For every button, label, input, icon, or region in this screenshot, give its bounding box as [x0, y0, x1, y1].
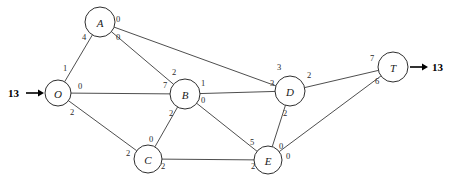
- flow-label-d-e-from: 2: [283, 108, 287, 118]
- edge-a-d: [114, 27, 276, 86]
- source-supply-value: 13: [8, 87, 20, 99]
- node-label-a: A: [96, 17, 104, 29]
- nodes-layer: OABCDET: [45, 7, 408, 174]
- flow-label-b-e-to: 5: [250, 137, 254, 147]
- node-label-d: D: [285, 86, 294, 98]
- flow-label-d-t-to: 7: [370, 53, 374, 63]
- flow-label-c-e-from: 2: [161, 161, 165, 171]
- node-label-t: T: [390, 62, 397, 74]
- flow-label-a-b-to: 2: [172, 67, 176, 77]
- flow-label-a-d-from: 0: [116, 14, 120, 24]
- sink-arrow-head: [422, 63, 428, 70]
- edge-d-t: [305, 70, 379, 87]
- sink-demand-value: 13: [432, 61, 444, 73]
- flow-label-o-c-to: 2: [126, 148, 130, 158]
- flow-label-d-t-from: 2: [307, 70, 311, 80]
- edge-b-c: [155, 107, 178, 147]
- flow-label-o-b-to: 7: [163, 80, 167, 90]
- node-label-b: B: [182, 89, 189, 101]
- node-label-e: E: [264, 155, 272, 167]
- flow-label-e-t-from: 0: [286, 151, 290, 161]
- flow-label-o-a-from: 1: [63, 63, 67, 73]
- flow-label-c-e-to: 2: [251, 161, 255, 171]
- node-label-o: O: [54, 88, 62, 100]
- flow-label-b-d-to: 3: [270, 78, 274, 88]
- flow-label-d-e-to: 0: [279, 141, 283, 151]
- edge-c-e: [162, 159, 254, 160]
- edge-o-c: [68, 101, 136, 151]
- edges-layer: [65, 27, 381, 160]
- edge-flow-labels-layer: 140722020320130522202706: [63, 14, 379, 171]
- flow-label-a-b-from: 0: [116, 32, 120, 42]
- edge-b-e: [197, 103, 257, 151]
- edge-a-b: [111, 32, 173, 85]
- flow-label-b-c-to: 0: [149, 134, 153, 144]
- flow-label-e-t-to: 6: [375, 76, 379, 86]
- flow-label-b-c-from: 2: [169, 108, 173, 118]
- network-flow-diagram: OABCDET 140722020320130522202706 1313: [0, 0, 449, 186]
- node-label-c: C: [144, 154, 152, 166]
- flow-label-o-a-to: 4: [82, 32, 87, 42]
- edge-o-b: [71, 93, 170, 94]
- flow-label-a-d-to: 3: [277, 62, 281, 72]
- network-graph-canvas: OABCDET 140722020320130522202706 1313: [0, 0, 449, 186]
- edge-b-d: [200, 91, 275, 93]
- source-arrow-head: [38, 89, 44, 96]
- flow-label-b-d-from: 1: [201, 78, 205, 88]
- flow-label-o-c-from: 2: [70, 107, 74, 117]
- flow-label-b-e-from: 0: [201, 95, 205, 105]
- edge-o-a: [65, 35, 93, 82]
- flow-label-o-b-from: 0: [78, 81, 82, 91]
